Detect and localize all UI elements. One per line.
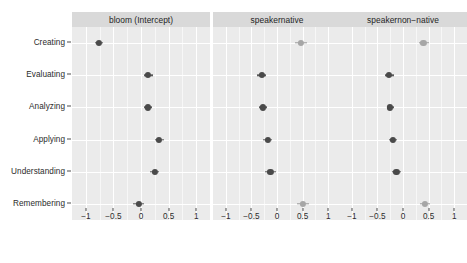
data-point: [145, 72, 151, 78]
gridline-horizontal: [213, 140, 341, 141]
y-tick-label-evaluating: Evaluating: [26, 70, 65, 79]
x-tick-label: 1: [326, 212, 331, 221]
y-tick-mark: [67, 106, 71, 107]
data-point: [267, 169, 273, 175]
x-tick-label: 1: [194, 212, 199, 221]
x-tick-mark: [225, 208, 226, 211]
gridline-horizontal: [72, 172, 210, 173]
y-tick-label-understanding: Understanding: [11, 166, 65, 175]
x-tick-label: 0: [401, 212, 406, 221]
gridline-horizontal: [339, 140, 467, 141]
x-tick-mark: [196, 208, 197, 211]
x-tick-mark: [428, 208, 429, 211]
gridline-major: [277, 27, 278, 220]
gridline-major: [169, 27, 170, 220]
gridline-major: [226, 27, 227, 220]
x-tick-label: −0.5: [105, 212, 121, 221]
y-tick-mark: [67, 74, 71, 75]
gridline-horizontal: [339, 75, 467, 76]
gridline-major: [196, 27, 197, 220]
facet-strip-3: speakernon−native: [339, 12, 467, 27]
data-point: [152, 169, 158, 175]
x-tick-label: −1: [347, 212, 356, 221]
y-tick-label-remembering: Remembering: [13, 198, 65, 207]
gridline-horizontal: [213, 107, 341, 108]
gridline-minor: [315, 27, 316, 220]
x-tick-label: 1: [452, 212, 457, 221]
gridline-minor: [264, 27, 265, 220]
data-point: [265, 136, 271, 142]
gridline-major: [303, 27, 304, 220]
x-tick-label: 0: [139, 212, 144, 221]
gridline-horizontal: [339, 172, 467, 173]
x-tick-mark: [251, 208, 252, 211]
gridline-horizontal: [213, 75, 341, 76]
data-point: [145, 104, 151, 110]
gridline-horizontal: [72, 75, 210, 76]
gridline-minor: [365, 27, 366, 220]
facet-strip-1: bloom (Intercept): [72, 12, 210, 27]
y-tick-label-applying: Applying: [33, 134, 65, 143]
gridline-minor: [239, 27, 240, 220]
gridline-horizontal: [213, 172, 341, 173]
x-tick-mark: [302, 208, 303, 211]
gridline-major: [454, 27, 455, 220]
gridline-minor: [416, 27, 417, 220]
gridline-major: [403, 27, 404, 220]
x-tick-mark: [403, 208, 404, 211]
gridline-minor: [155, 27, 156, 220]
x-tick-mark: [328, 208, 329, 211]
facet-strip-label: bloom (Intercept): [109, 15, 173, 25]
x-axis-1: −1−0.500.51: [72, 208, 210, 230]
x-tick-label: −1: [81, 212, 90, 221]
facet-strip-label: speakernative: [251, 15, 304, 25]
gridline-major: [141, 27, 142, 220]
gridline-minor: [127, 27, 128, 220]
panel-plot-area: [72, 27, 210, 220]
gridline-minor: [441, 27, 442, 220]
x-tick-label: −1: [221, 212, 230, 221]
x-tick-mark: [85, 208, 86, 211]
gridline-major: [429, 27, 430, 220]
y-tick-mark: [67, 202, 71, 203]
x-tick-mark: [351, 208, 352, 211]
x-tick-label: 0: [275, 212, 280, 221]
x-tick-mark: [377, 208, 378, 211]
y-tick-label-creating: Creating: [34, 38, 65, 47]
gridline-major: [86, 27, 87, 220]
gridline-horizontal: [72, 107, 210, 108]
data-point: [422, 201, 428, 207]
x-tick-label: −0.5: [369, 212, 385, 221]
x-tick-label: 0.5: [297, 212, 308, 221]
data-point: [156, 136, 162, 142]
x-tick-mark: [277, 208, 278, 211]
x-tick-mark: [168, 208, 169, 211]
x-axis-2: −1−0.500.51: [213, 208, 341, 230]
y-tick-mark: [67, 170, 71, 171]
data-point: [300, 201, 306, 207]
gridline-minor: [182, 27, 183, 220]
gridline-horizontal: [72, 43, 210, 44]
x-tick-label: 0.5: [423, 212, 434, 221]
gridline-major: [377, 27, 378, 220]
gridline-horizontal: [339, 43, 467, 44]
data-point: [386, 72, 392, 78]
y-tick-mark: [67, 42, 71, 43]
gridline-major: [251, 27, 252, 220]
x-tick-mark: [113, 208, 114, 211]
x-tick-label: −0.5: [243, 212, 259, 221]
gridline-minor: [290, 27, 291, 220]
x-tick-mark: [454, 208, 455, 211]
facet-strip-label: speakernon−native: [367, 15, 439, 25]
panel-plot-area: [213, 27, 341, 220]
data-point: [420, 40, 426, 46]
gridline-major: [352, 27, 353, 220]
y-tick-mark: [67, 138, 71, 139]
data-point: [96, 40, 102, 46]
y-axis: CreatingEvaluatingAnalyzingApplyingUnder…: [0, 26, 72, 219]
gridline-horizontal: [72, 140, 210, 141]
coefficient-plot: CreatingEvaluatingAnalyzingApplyingUnder…: [0, 0, 467, 263]
gridline-minor: [390, 27, 391, 220]
x-tick-mark: [141, 208, 142, 211]
gridline-horizontal: [213, 204, 341, 205]
